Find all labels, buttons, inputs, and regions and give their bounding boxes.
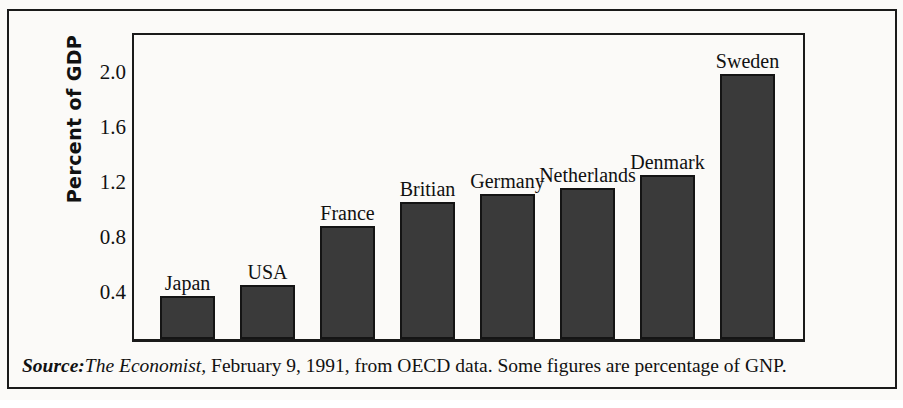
bar-label-germany: Germany	[470, 171, 544, 191]
bar-label-britian: Britian	[400, 179, 456, 199]
bar-germany	[480, 194, 535, 339]
bar-series: JapanUSAFranceBritianGermanyNetherlandsD…	[134, 35, 803, 339]
source-rest: February 9, 1991, from OECD data. Some f…	[206, 355, 787, 376]
source-note: Source:The Economist, February 9, 1991, …	[22, 355, 884, 377]
bar-label-japan: Japan	[165, 273, 211, 293]
source-publication: The Economist,	[85, 355, 206, 376]
chart-figure: Percent of GDP 2.0 1.6 1.2 0.8 0.4 Japan…	[0, 0, 903, 408]
y-tick-label-0-8: 0.8	[70, 227, 126, 248]
bar-label-france: France	[320, 203, 374, 223]
y-tick-label-2-0: 2.0	[70, 62, 126, 83]
bar-sweden	[720, 74, 775, 339]
bar-group-japan: Japan	[160, 35, 215, 339]
bar-label-netherlands: Netherlands	[539, 165, 636, 185]
bar-netherlands	[560, 188, 615, 339]
bar-group-germany: Germany	[480, 35, 535, 339]
bar-usa	[240, 285, 295, 339]
y-tick-label-1-6: 1.6	[70, 117, 126, 138]
bar-group-sweden: Sweden	[720, 35, 775, 339]
bar-label-usa: USA	[247, 262, 287, 282]
plot-area: JapanUSAFranceBritianGermanyNetherlandsD…	[134, 35, 803, 339]
bar-label-sweden: Sweden	[716, 51, 779, 71]
x-axis-baseline	[132, 339, 805, 342]
bar-group-france: France	[320, 35, 375, 339]
bar-britian	[400, 202, 455, 339]
bar-label-denmark: Denmark	[630, 152, 704, 172]
y-tick-label-1-2: 1.2	[70, 172, 126, 193]
source-prefix: Source:	[22, 355, 85, 376]
y-axis-tick-labels: 2.0 1.6 1.2 0.8 0.4	[60, 33, 126, 341]
bar-group-denmark: Denmark	[640, 35, 695, 339]
bar-denmark	[640, 175, 695, 339]
bar-group-usa: USA	[240, 35, 295, 339]
bar-france	[320, 226, 375, 339]
bar-group-netherlands: Netherlands	[560, 35, 615, 339]
bar-group-britian: Britian	[400, 35, 455, 339]
bar-japan	[160, 296, 215, 339]
y-tick-label-0-4: 0.4	[70, 282, 126, 303]
